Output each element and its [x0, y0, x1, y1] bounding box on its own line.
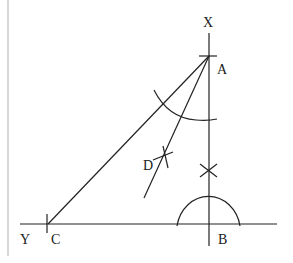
geometry-diagram: X A D Y C B [0, 0, 293, 263]
label-d: D [143, 158, 153, 173]
label-a: A [217, 62, 228, 77]
label-y: Y [20, 232, 30, 247]
cross-mark-d-1 [153, 152, 173, 160]
line-ac [48, 56, 209, 224]
label-x: X [203, 15, 213, 30]
label-b: B [218, 232, 227, 247]
construction-arc-a [154, 90, 217, 120]
label-c: C [51, 232, 60, 247]
cross-mark-d-2 [163, 146, 168, 168]
bisector-line-ad [144, 56, 209, 198]
